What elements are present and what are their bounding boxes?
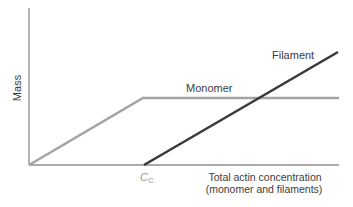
cc-main: C	[140, 171, 148, 183]
y-axis-label: Mass	[11, 74, 23, 101]
filament-line	[144, 52, 338, 165]
x-axis-label-line1: Total actin concentration	[208, 171, 321, 183]
monomer-line	[29, 98, 339, 165]
cc-tick-label: CC	[140, 171, 154, 185]
actin-mass-chart: Mass Monomer Filament CC Total actin con…	[0, 0, 353, 207]
cc-subscript: C	[148, 176, 154, 185]
filament-label: Filament	[272, 49, 314, 61]
x-axis-label-line2: (monomer and filaments)	[206, 183, 323, 195]
monomer-label: Monomer	[186, 82, 233, 94]
